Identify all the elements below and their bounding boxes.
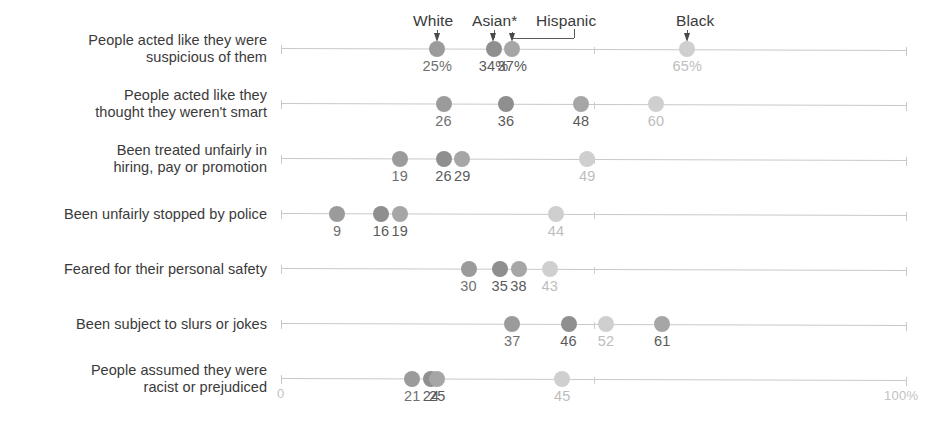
- data-point-black[interactable]: [554, 371, 570, 387]
- chart-row: People acted like theythought they weren…: [0, 91, 949, 146]
- data-point-asian[interactable]: [492, 261, 508, 277]
- legend-label-asian[interactable]: Asian*: [472, 12, 517, 30]
- data-point-label: 52: [584, 333, 628, 349]
- axis-start-tick: [281, 320, 282, 329]
- axis-start-tick: [281, 210, 282, 219]
- data-point-white[interactable]: [329, 206, 345, 222]
- row-category-label: Been subject to slurs or jokes: [0, 316, 267, 333]
- data-point-hispanic[interactable]: [573, 96, 589, 112]
- data-point-black[interactable]: [598, 316, 614, 332]
- data-point-black[interactable]: [679, 41, 695, 57]
- axis-end-tick: [906, 267, 907, 276]
- data-point-label: 26: [422, 113, 466, 129]
- data-point-asian[interactable]: [486, 41, 502, 57]
- axis-end-tick: [906, 212, 907, 221]
- data-point-black[interactable]: [648, 96, 664, 112]
- data-point-hispanic[interactable]: [429, 371, 445, 387]
- data-point-label: 61: [640, 333, 684, 349]
- axis-start-tick: [281, 45, 282, 54]
- row-label-line1: Been treated unfairly in: [0, 142, 267, 159]
- axis-start-label: 0: [277, 386, 285, 401]
- data-point-label: 36: [484, 113, 528, 129]
- data-point-hispanic[interactable]: [511, 261, 527, 277]
- axis-end-tick: [906, 47, 907, 56]
- data-point-hispanic[interactable]: [504, 41, 520, 57]
- data-point-white[interactable]: [429, 41, 445, 57]
- data-point-label: 37%: [490, 58, 534, 74]
- chart-row: Been subject to slurs or jokes37465261: [0, 311, 949, 366]
- data-point-black[interactable]: [542, 261, 558, 277]
- data-point-asian[interactable]: [498, 96, 514, 112]
- axis-mid-tick: [594, 377, 595, 384]
- row-label-line2: racist or prejudiced: [0, 379, 267, 396]
- row-label-line1: People assumed they were: [0, 362, 267, 379]
- chart-row: Been treated unfairly inhiring, pay or p…: [0, 146, 949, 201]
- axis-start-tick: [281, 265, 282, 274]
- row-label-line1: People acted like they: [0, 87, 267, 104]
- row-label-line1: Been unfairly stopped by police: [0, 206, 267, 223]
- data-point-white[interactable]: [461, 261, 477, 277]
- legend-label-hispanic[interactable]: Hispanic: [536, 12, 596, 30]
- axis-mid-tick: [594, 102, 595, 109]
- row-label-line1: Feared for their personal safety: [0, 261, 267, 278]
- data-point-label: 9: [315, 223, 359, 239]
- legend-label-white[interactable]: White: [413, 12, 453, 30]
- axis-end-tick: [906, 102, 907, 111]
- chart-row: People assumed they wereracist or prejud…: [0, 366, 949, 421]
- data-point-label: 43: [528, 278, 572, 294]
- data-point-hispanic[interactable]: [654, 316, 670, 332]
- row-category-label: People acted like theythought they weren…: [0, 87, 267, 120]
- row-label-line1: People acted like they were: [0, 32, 267, 49]
- dot-plot-chart: WhiteAsian*HispanicBlack People acted li…: [0, 0, 949, 439]
- data-point-hispanic[interactable]: [392, 206, 408, 222]
- row-label-line2: hiring, pay or promotion: [0, 159, 267, 176]
- axis-mid-tick: [594, 212, 595, 219]
- axis-end-label: 100%: [884, 388, 918, 403]
- data-point-white[interactable]: [504, 316, 520, 332]
- data-point-hispanic[interactable]: [454, 151, 470, 167]
- chart-row: Feared for their personal safety30353843: [0, 256, 949, 311]
- data-point-white[interactable]: [392, 151, 408, 167]
- data-point-asian[interactable]: [561, 316, 577, 332]
- chart-row: Been unfairly stopped by police9161944: [0, 201, 949, 256]
- axis-mid-tick: [594, 322, 595, 329]
- data-point-label: 29: [440, 168, 484, 184]
- row-label-line1: Been subject to slurs or jokes: [0, 316, 267, 333]
- data-point-asian[interactable]: [373, 206, 389, 222]
- axis-start-tick: [281, 155, 282, 164]
- data-point-label: 37: [490, 333, 534, 349]
- row-label-line2: suspicious of them: [0, 49, 267, 66]
- row-category-label: Been unfairly stopped by police: [0, 206, 267, 223]
- row-category-label: People acted like they weresuspicious of…: [0, 32, 267, 65]
- row-category-label: Feared for their personal safety: [0, 261, 267, 278]
- axis-end-tick: [906, 377, 907, 386]
- data-point-label: 44: [534, 223, 578, 239]
- data-point-label: 19: [378, 168, 422, 184]
- data-point-black[interactable]: [548, 206, 564, 222]
- data-point-black[interactable]: [579, 151, 595, 167]
- axis-end-tick: [906, 322, 907, 331]
- data-point-label: 48: [559, 113, 603, 129]
- legend-label-black[interactable]: Black: [676, 12, 714, 30]
- data-point-white[interactable]: [436, 96, 452, 112]
- data-point-white[interactable]: [404, 371, 420, 387]
- data-point-label: 60: [634, 113, 678, 129]
- row-category-label: Been treated unfairly inhiring, pay or p…: [0, 142, 267, 175]
- axis-end-tick: [906, 157, 907, 166]
- axis-mid-tick: [594, 47, 595, 54]
- row-category-label: People assumed they wereracist or prejud…: [0, 362, 267, 395]
- data-point-label: 25%: [415, 58, 459, 74]
- data-point-label: 45: [540, 388, 584, 404]
- data-point-label: 65%: [665, 58, 709, 74]
- data-point-label: 19: [378, 223, 422, 239]
- data-point-label: 25: [415, 388, 459, 404]
- axis-start-tick: [281, 100, 282, 109]
- row-label-line2: thought they weren't smart: [0, 104, 267, 121]
- data-point-asian[interactable]: [436, 151, 452, 167]
- chart-row: People acted like they weresuspicious of…: [0, 36, 949, 91]
- axis-start-tick: [281, 375, 282, 384]
- data-point-label: 49: [565, 168, 609, 184]
- axis-mid-tick: [594, 267, 595, 274]
